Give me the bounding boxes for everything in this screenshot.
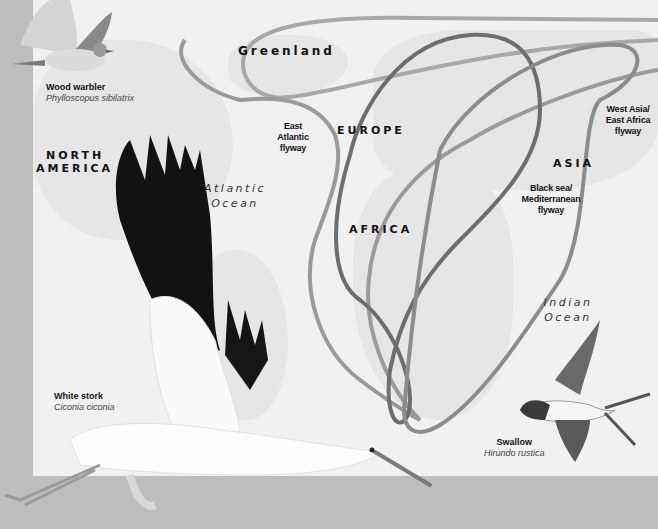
flyway-line: East Africa	[598, 115, 658, 126]
bird-scientific-name: Phylloscopus sibilatrix	[46, 93, 134, 104]
flyway-line: flyway	[268, 143, 318, 154]
flyway-line: Black sea/	[516, 183, 586, 194]
atlantic-line1: Atlantic	[200, 181, 270, 196]
label-africa: AFRICA	[349, 223, 412, 236]
flyway-line: flyway	[598, 126, 658, 137]
flyway-line: West Asia/	[598, 104, 658, 115]
flyway-line: East	[268, 121, 318, 132]
bird-common-name: Swallow	[484, 437, 545, 448]
bird-common-name: Wood warbler	[46, 82, 134, 93]
wood-warbler-illustration	[12, 0, 114, 71]
indian-line2: Ocean	[538, 310, 598, 325]
flyway-line: Mediterranean	[516, 194, 586, 205]
caption-swallow: Swallow Hirundo rustica	[484, 437, 545, 459]
label-north-america-line1: NORTH	[46, 149, 104, 162]
flyway-line: flyway	[516, 205, 586, 216]
bird-scientific-name: Ciconia ciconia	[54, 402, 115, 413]
label-asia: ASIA	[553, 157, 594, 170]
label-atlantic-ocean: Atlantic Ocean	[200, 181, 270, 211]
label-europe: EUROPE	[337, 124, 405, 137]
label-east-atlantic-flyway: East Atlantic flyway	[268, 121, 318, 154]
bird-illustrations	[0, 0, 658, 529]
caption-white-stork: White stork Ciconia ciconia	[54, 391, 115, 413]
indian-line1: Indian	[538, 295, 598, 310]
label-west-asia-east-africa-flyway: West Asia/ East Africa flyway	[598, 104, 658, 137]
label-north-america-line2: AMERICA	[36, 162, 113, 175]
atlantic-line2: Ocean	[200, 196, 270, 211]
bird-scientific-name: Hirundo rustica	[484, 448, 545, 459]
label-greenland: Greenland	[238, 45, 335, 58]
label-indian-ocean: Indian Ocean	[538, 295, 598, 325]
caption-wood-warbler: Wood warbler Phylloscopus sibilatrix	[46, 82, 134, 104]
flyway-line: Atlantic	[268, 132, 318, 143]
label-black-sea-mediterranean-flyway: Black sea/ Mediterranean flyway	[516, 183, 586, 216]
bird-common-name: White stork	[54, 391, 115, 402]
